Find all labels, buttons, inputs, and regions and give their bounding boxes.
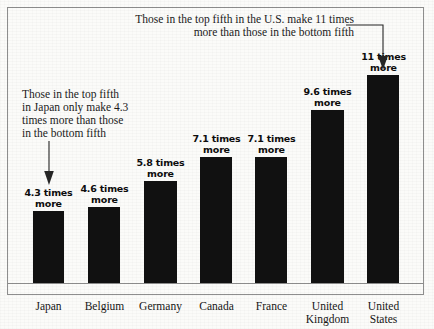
bar-value-label-france: 7.1 times more	[237, 134, 306, 155]
annotation-japan: Those in the top fifth in Japan only mak…	[22, 88, 162, 140]
bar-value-label-belgium-line2: more	[70, 195, 139, 206]
bar-value-label-france-line2: more	[237, 145, 306, 156]
bar-canada	[200, 157, 232, 283]
bar-value-label-belgium-line1: 4.6 times	[70, 184, 139, 195]
bar-value-label-germany-line2: more	[126, 169, 195, 180]
bar-value-label-france-line1: 7.1 times	[237, 134, 306, 145]
annotation-japan-line1: Those in the top fifth	[22, 88, 162, 101]
leader-line-us	[346, 18, 426, 78]
category-label-united-states: United States	[349, 300, 418, 325]
bar-belgium	[88, 207, 120, 283]
bar-value-label-united-kingdom-line1: 9.6 times	[293, 87, 362, 98]
bar-value-label-germany: 5.8 times more	[126, 158, 195, 179]
category-label-united-states-line1: United	[349, 300, 418, 313]
annotation-us-line2: more than those in the bottom fifth	[104, 26, 354, 39]
bar-japan	[33, 211, 64, 283]
axis-baseline	[8, 283, 423, 284]
annotation-us-line1: Those in the top fifth in the U.S. make …	[104, 13, 354, 26]
annotation-japan-line3: times more than those	[22, 114, 162, 127]
annotation-us: Those in the top fifth in the U.S. make …	[104, 13, 354, 39]
bar-value-label-belgium: 4.6 times more	[70, 184, 139, 205]
bar-united-states	[367, 75, 399, 283]
chart-page: Those in the top fifth in the U.S. make …	[0, 0, 434, 329]
category-label-united-states-line2: States	[349, 313, 418, 326]
annotation-japan-line2: in Japan only make 4.3	[22, 101, 162, 114]
bar-united-kingdom	[311, 110, 344, 283]
bar-value-label-united-kingdom-line2: more	[293, 98, 362, 109]
bar-value-label-germany-line1: 5.8 times	[126, 158, 195, 169]
annotation-japan-line4: in the bottom fifth	[22, 127, 162, 140]
bar-france	[255, 157, 287, 283]
leader-line-japan	[40, 141, 60, 191]
bar-value-label-united-kingdom: 9.6 times more	[293, 87, 362, 108]
bar-germany	[144, 181, 177, 283]
